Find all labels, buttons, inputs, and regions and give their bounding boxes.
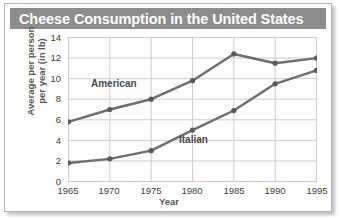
y-tick-10: 10 xyxy=(41,73,61,84)
chart-canvas xyxy=(68,37,317,182)
x-tick-1965: 1965 xyxy=(48,185,88,196)
y-tick-6: 6 xyxy=(41,114,61,125)
y-tick-2: 2 xyxy=(41,155,61,166)
x-tick-1985: 1985 xyxy=(214,185,254,196)
chart-figure: Cheese Consumption in the United States … xyxy=(4,3,332,212)
x-tick-1990: 1990 xyxy=(255,185,295,196)
chart-title-bar: Cheese Consumption in the United States xyxy=(10,8,326,29)
x-axis-label: Year xyxy=(5,196,333,207)
page-title: Cheese Consumption in the United States xyxy=(19,11,304,27)
x-tick-1975: 1975 xyxy=(131,185,171,196)
x-tick-1980: 1980 xyxy=(172,185,212,196)
y-tick-8: 8 xyxy=(41,93,61,104)
plot-area: American Italian xyxy=(68,37,317,182)
y-tick-14: 14 xyxy=(41,32,61,43)
series-label-american: American xyxy=(91,78,137,89)
y-tick-12: 12 xyxy=(41,52,61,63)
y-tick-4: 4 xyxy=(41,135,61,146)
series-label-italian: Italian xyxy=(179,134,208,145)
x-tick-1970: 1970 xyxy=(89,185,129,196)
x-tick-1995: 1995 xyxy=(297,185,337,196)
